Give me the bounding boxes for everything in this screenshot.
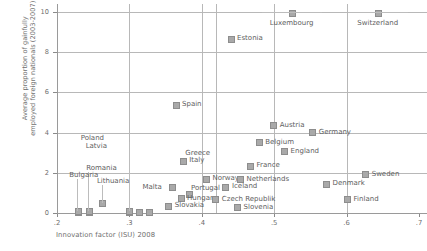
data-point[interactable]	[180, 158, 187, 165]
data-point-label: Spain	[182, 101, 202, 108]
x-tick	[274, 214, 275, 217]
data-point-label: Lithuania	[97, 178, 129, 185]
data-point-label: Malta	[142, 184, 161, 191]
x-tick	[202, 214, 203, 217]
data-point-label: Poland	[81, 135, 104, 142]
data-point[interactable]	[165, 203, 172, 210]
x-tick-label: .3	[121, 219, 137, 227]
data-point[interactable]	[173, 102, 180, 109]
data-point[interactable]	[256, 139, 263, 146]
y-tick-label: 4	[33, 129, 49, 137]
gridline-horizontal	[57, 133, 427, 134]
x-tick-label: .2	[49, 219, 65, 227]
x-tick	[347, 214, 348, 217]
y-tick-label: 0	[33, 209, 49, 217]
data-point-label: Denmark	[333, 180, 365, 187]
x-tick-label: .6	[339, 219, 355, 227]
data-point[interactable]	[375, 10, 382, 17]
data-point[interactable]	[362, 171, 369, 178]
data-point-label: Italy	[189, 157, 204, 164]
y-tick-label: 8	[33, 48, 49, 56]
x-axis-title: Innovation factor (ISU) 2008	[56, 231, 155, 239]
x-tick	[57, 214, 58, 217]
data-point-label: Slovakia	[175, 202, 204, 209]
y-tick	[53, 133, 57, 134]
data-point[interactable]	[270, 122, 277, 129]
data-point-label: Latvia	[86, 143, 107, 150]
x-axis	[57, 213, 427, 214]
y-tick	[53, 12, 57, 13]
data-point[interactable]	[136, 209, 143, 216]
data-point[interactable]	[169, 184, 176, 191]
data-point-label: Austria	[280, 122, 305, 129]
data-point[interactable]	[289, 10, 296, 17]
data-point[interactable]	[86, 208, 93, 215]
data-point-label: Finland	[354, 196, 379, 203]
data-point[interactable]	[146, 209, 153, 216]
data-point-label: Slovenia	[244, 204, 274, 211]
y-tick-label: 10	[33, 8, 49, 16]
leader-line	[262, 12, 322, 13]
data-point[interactable]	[222, 184, 229, 191]
data-point-label: Sweden	[372, 171, 400, 178]
data-point[interactable]	[126, 208, 133, 215]
data-point[interactable]	[228, 36, 235, 43]
data-point-label: Belgium	[265, 139, 294, 146]
data-point[interactable]	[212, 196, 219, 203]
x-tick-label: .4	[194, 219, 210, 227]
data-point[interactable]	[203, 176, 210, 183]
data-point-label: France	[257, 162, 280, 169]
data-point[interactable]	[247, 163, 254, 170]
leader-line	[102, 185, 103, 203]
y-tick	[53, 52, 57, 53]
data-point-label: Estonia	[237, 35, 263, 42]
y-tick	[53, 92, 57, 93]
data-point[interactable]	[234, 204, 241, 211]
data-point-label: Luxembourg	[266, 20, 318, 27]
data-point-label: Switzerland	[352, 20, 404, 27]
data-point[interactable]	[323, 181, 330, 188]
data-point[interactable]	[75, 208, 82, 215]
data-point[interactable]	[344, 196, 351, 203]
y-axis-title: Average proportion of gainfully employed…	[21, 0, 37, 163]
x-tick-label: .5	[266, 219, 282, 227]
data-point-label: England	[291, 148, 319, 155]
leader-line	[77, 179, 78, 211]
y-tick	[53, 173, 57, 174]
gridline-horizontal	[57, 52, 427, 53]
x-tick-label: .7	[411, 219, 427, 227]
data-point-label: Portugal	[191, 185, 220, 192]
data-point[interactable]	[281, 148, 288, 155]
plot-area: 0246810.2.3.4.5.6.7LuxembourgSwitzerland…	[57, 12, 419, 213]
y-tick-label: 2	[33, 169, 49, 177]
leader-line	[348, 12, 408, 13]
data-point-label: Czech Republik	[222, 196, 276, 203]
data-point-label: Norway	[212, 175, 239, 182]
y-axis	[57, 4, 58, 214]
y-tick-label: 6	[33, 88, 49, 96]
data-point-label: Germany	[319, 129, 351, 136]
data-point-label: Bulgaria	[69, 172, 98, 179]
data-point-label: Iceland	[232, 183, 257, 190]
x-tick	[419, 214, 420, 217]
data-point[interactable]	[99, 200, 106, 207]
data-point[interactable]	[309, 129, 316, 136]
gridline-horizontal	[57, 92, 427, 93]
